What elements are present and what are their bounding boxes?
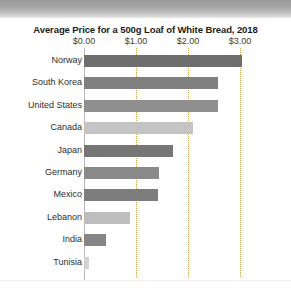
bar-south-korea bbox=[84, 77, 218, 89]
bar-japan bbox=[84, 145, 173, 157]
bar-row: Mexico bbox=[0, 185, 291, 207]
bar-row: Japan bbox=[0, 141, 291, 163]
bar-row: United States bbox=[0, 96, 291, 118]
chart-card: Average Price for a 500g Loaf of White B… bbox=[0, 18, 291, 288]
window-top-band bbox=[0, 0, 291, 18]
bar-row: Norway bbox=[0, 51, 291, 73]
x-axis-tick-label: $2.00 bbox=[177, 36, 200, 46]
category-label-tunisia: Tunisia bbox=[53, 257, 82, 267]
x-axis-tick-label: $0.00 bbox=[73, 36, 96, 46]
bar-row: Lebanon bbox=[0, 208, 291, 230]
category-label-south-korea: South Korea bbox=[32, 77, 82, 87]
bar-row: Canada bbox=[0, 118, 291, 140]
bar-row: South Korea bbox=[0, 73, 291, 95]
bar-row: Germany bbox=[0, 163, 291, 185]
category-label-lebanon: Lebanon bbox=[47, 212, 82, 222]
category-label-mexico: Mexico bbox=[53, 189, 82, 199]
bar-norway bbox=[84, 55, 242, 67]
bar-row: Tunisia bbox=[0, 253, 291, 275]
category-label-japan: Japan bbox=[57, 145, 82, 155]
bar-united-states bbox=[84, 100, 218, 112]
bar-india bbox=[84, 234, 106, 246]
bar-lebanon bbox=[84, 212, 130, 224]
plot-area: $0.00$1.00$2.00$3.00NorwaySouth KoreaUni… bbox=[0, 18, 291, 288]
category-label-united-states: United States bbox=[28, 100, 82, 110]
bar-canada bbox=[84, 122, 193, 134]
category-label-norway: Norway bbox=[51, 55, 82, 65]
bar-row: India bbox=[0, 230, 291, 252]
category-label-canada: Canada bbox=[50, 122, 82, 132]
bar-tunisia bbox=[84, 257, 89, 269]
bar-germany bbox=[84, 167, 159, 179]
x-axis-tick-label: $3.00 bbox=[229, 36, 252, 46]
category-label-india: India bbox=[62, 234, 82, 244]
category-label-germany: Germany bbox=[45, 167, 82, 177]
bar-mexico bbox=[84, 189, 158, 201]
x-axis-tick-label: $1.00 bbox=[125, 36, 148, 46]
card-bottom-divider bbox=[0, 280, 291, 281]
